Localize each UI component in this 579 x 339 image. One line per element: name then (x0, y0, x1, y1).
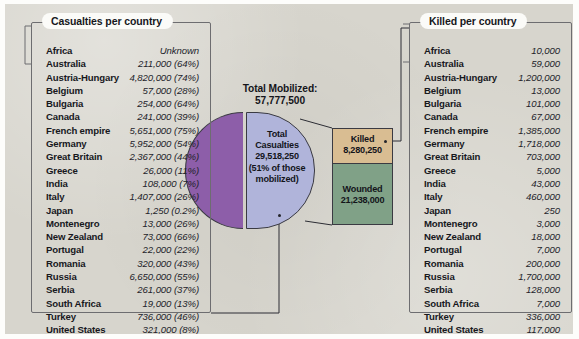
country-name: Australia (46, 57, 86, 70)
country-value: 108,000 (7%) (143, 177, 199, 190)
country-name: Germany (424, 137, 465, 150)
country-value: 57,000 (28%) (143, 84, 199, 97)
killed-rows: Africa10,000Australia59,000Austria-Hunga… (409, 44, 572, 337)
country-name: Great Britain (46, 150, 102, 163)
table-row: Montenegro3,000 (424, 217, 560, 230)
country-value: 1,700,000 (518, 270, 560, 283)
table-row: Bulgaria254,000 (64%) (46, 97, 199, 110)
country-name: Russia (424, 270, 455, 283)
country-name: Montenegro (424, 217, 477, 230)
country-name: Romania (424, 257, 463, 270)
country-name: Turkey (424, 310, 454, 323)
country-name: Canada (424, 110, 458, 123)
country-value: 26,000 (11%) (143, 164, 199, 177)
table-row: Canada67,000 (424, 110, 560, 123)
table-row: Portugal22,000 (22%) (46, 243, 199, 256)
killed-label: Killed (351, 134, 375, 144)
table-row: Greece5,000 (424, 164, 560, 177)
country-value: 13,000 (26%) (143, 217, 199, 230)
country-value: 5,952,000 (54%) (130, 137, 199, 150)
country-value: 7,000 (536, 243, 560, 256)
table-row: Great Britain703,000 (424, 150, 560, 163)
table-row: Italy460,000 (424, 190, 560, 203)
country-name: New Zealand (424, 230, 481, 243)
country-value: 18,000 (531, 230, 560, 243)
country-value: 59,000 (531, 57, 560, 70)
table-row: South Africa7,000 (424, 297, 560, 310)
country-value: 241,000 (39%) (137, 110, 199, 123)
country-value: 73,000 (66%) (143, 230, 199, 243)
table-row: India108,000 (7%) (46, 177, 199, 190)
country-name: Austria-Hungary (424, 71, 497, 84)
total-mobilized-caption: Total Mobilized: 57,777,500 (222, 83, 338, 108)
country-name: South Africa (46, 297, 101, 310)
country-value: 2,367,000 (44%) (130, 150, 199, 163)
table-row: Japan250 (424, 204, 560, 217)
country-value: 5,651,000 (75%) (130, 124, 199, 137)
table-row: United States321,000 (8%) (46, 323, 199, 336)
table-row: Germany1,718,000 (424, 137, 560, 150)
country-value: 1,250 (0.2%) (145, 204, 199, 217)
country-value: 211,000 (64%) (138, 57, 199, 70)
table-row: Italy1,407,000 (26%) (46, 190, 199, 203)
country-name: Great Britain (424, 150, 480, 163)
table-row: Portugal7,000 (424, 243, 560, 256)
panel-title-killed: Killed per country (420, 13, 527, 29)
country-name: Belgium (424, 84, 461, 97)
table-row: Serbia261,000 (37%) (46, 283, 199, 296)
country-value: 703,000 (526, 150, 560, 163)
country-name: Russia (46, 270, 77, 283)
country-name: Africa (424, 44, 450, 57)
table-row: French empire1,385,000 (424, 124, 560, 137)
country-value: 4,820,000 (74%) (130, 71, 199, 84)
country-value: 117,000 (527, 323, 560, 336)
country-name: United States (424, 323, 483, 336)
country-name: Canada (46, 110, 80, 123)
country-name: Austria-Hungary (46, 71, 119, 84)
table-row: Germany5,952,000 (54%) (46, 137, 199, 150)
table-row: New Zealand18,000 (424, 230, 560, 243)
country-name: India (424, 177, 446, 190)
country-value: 320,000 (43%) (137, 257, 199, 270)
panel-title-casualties: Casualties per country (42, 13, 173, 29)
table-row: Serbia128,000 (424, 283, 560, 296)
country-name: Serbia (424, 283, 452, 296)
country-name: Belgium (46, 84, 83, 97)
country-value: 250 (544, 204, 560, 217)
country-value: 7,000 (536, 297, 560, 310)
killed-callout-dot (384, 140, 387, 143)
table-row: Montenegro13,000 (26%) (46, 217, 199, 230)
pie-slice-label: Total Casualties 29,518,250 (51% of thos… (246, 129, 308, 185)
table-row: Russia1,700,000 (424, 270, 560, 283)
table-row: New Zealand73,000 (66%) (46, 230, 199, 243)
bar-segment-killed: Killed 8,280,250 (332, 128, 393, 164)
country-name: Bulgaria (424, 97, 461, 110)
country-value: 101,000 (526, 97, 560, 110)
table-row: Australia211,000 (64%) (46, 57, 199, 70)
country-value: 336,000 (526, 310, 560, 323)
country-value: 1,200,000 (518, 71, 560, 84)
table-row: Turkey736,000 (46%) (46, 310, 199, 323)
country-value: 67,000 (531, 110, 560, 123)
country-name: Japan (46, 204, 73, 217)
killed-value: 8,280,250 (343, 145, 382, 155)
table-row: Great Britain2,367,000 (44%) (46, 150, 199, 163)
country-name: French empire (424, 124, 488, 137)
table-row: Belgium57,000 (28%) (46, 84, 199, 97)
infographic-page: Casualties per country AfricaUnknownAust… (0, 0, 579, 339)
table-row: Australia59,000 (424, 57, 560, 70)
country-name: Japan (424, 204, 451, 217)
table-row: India43,000 (424, 177, 560, 190)
table-row: Greece26,000 (11%) (46, 164, 199, 177)
total-mobilized-label: Total Mobilized: (243, 83, 318, 94)
country-name: Greece (46, 164, 78, 177)
country-name: Montenegro (46, 217, 99, 230)
country-name: Serbia (46, 283, 74, 296)
country-value: 460,000 (526, 190, 560, 203)
country-value: 261,000 (37%) (137, 283, 199, 296)
country-value: 13,000 (531, 84, 560, 97)
country-value: 6,650,000 (55%) (130, 270, 199, 283)
country-name: New Zealand (46, 230, 103, 243)
table-row: Austria-Hungary4,820,000 (74%) (46, 71, 199, 84)
table-row: AfricaUnknown (46, 44, 199, 57)
